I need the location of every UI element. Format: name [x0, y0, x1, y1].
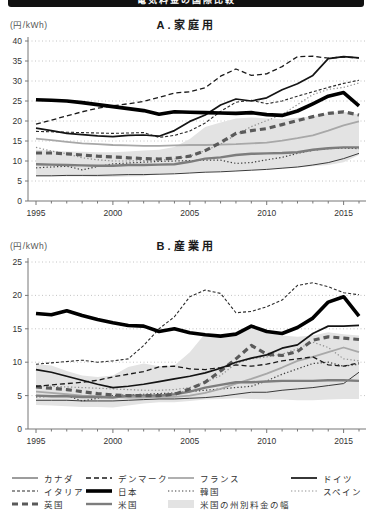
y-tick-label: 5 [17, 391, 22, 401]
band-swatch [168, 500, 194, 508]
legend-swatch-italy [12, 486, 40, 496]
x-tick-label: 2000 [103, 436, 122, 446]
legend-label: 米国 [118, 498, 138, 510]
household-chart-canvas: 051015202530354019952000200520102015 [0, 31, 372, 231]
legend-label: スペイン [323, 485, 362, 497]
y-tick-label: 25 [13, 96, 23, 106]
legend-item-us: 米国 [86, 498, 168, 510]
legend-item-italy: イタリア [12, 485, 86, 497]
industrial-chart-section: (円/kWh) B.産業用 05101520251995200020052010… [0, 237, 372, 464]
legend-item-korea: 韓国 [168, 485, 291, 497]
legend-label: 日本 [118, 485, 138, 497]
legend-label: 米国の州別料金の幅 [200, 498, 290, 510]
legend-label: カナダ [44, 472, 74, 484]
household-chart-title: A.家庭用 [0, 16, 372, 32]
legend-item-band: 米国の州別料金の幅 [168, 498, 291, 510]
legend-swatch-japan [86, 486, 114, 496]
legend-item-canada: カナダ [12, 472, 86, 484]
y-tick-label: 25 [13, 257, 23, 267]
x-tick-label: 2005 [180, 208, 199, 218]
x-tick-label: 2015 [334, 208, 353, 218]
report-title: 電気料金の国際比較 [137, 0, 236, 5]
y-tick-label: 35 [13, 56, 23, 66]
industrial-chart-canvas: 051015202519952000200520102015 [0, 252, 372, 464]
legend-item-japan: 日本 [86, 485, 168, 497]
y-tick-label: 15 [13, 136, 23, 146]
y-tick-label: 20 [13, 290, 23, 300]
legend-item-germany: ドイツ [291, 472, 353, 484]
y-tick-label: 30 [13, 76, 23, 86]
chart-legend: カナダデンマークフランスドイツイタリア日本韓国スペイン英国米国米国の州別料金の幅 [0, 472, 372, 510]
report-title-bar: 電気料金の国際比較 [8, 0, 364, 7]
y-tick-label: 0 [17, 196, 22, 206]
y-tick-label: 0 [17, 424, 22, 434]
x-tick-label: 2015 [334, 436, 353, 446]
legend-label: フランス [200, 472, 240, 484]
legend-swatch-band [168, 499, 196, 509]
legend-item-spain: スペイン [291, 485, 362, 497]
x-tick-label: 1995 [27, 208, 46, 218]
y-tick-label: 40 [13, 36, 23, 46]
legend-label: 韓国 [200, 485, 220, 497]
legend-label: イタリア [44, 485, 84, 497]
y-tick-label: 15 [13, 324, 23, 334]
legend-label: 英国 [44, 498, 64, 510]
x-tick-label: 2010 [257, 436, 276, 446]
series-japan-line [36, 297, 359, 336]
y-tick-label: 10 [13, 357, 23, 367]
y-tick-label: 5 [17, 176, 22, 186]
legend-swatch-korea [168, 486, 196, 496]
legend-swatch-denmark [86, 473, 114, 483]
x-tick-label: 2010 [257, 208, 276, 218]
legend-label: デンマーク [118, 472, 168, 484]
y-tick-label: 20 [13, 116, 23, 126]
y-tick-label: 10 [13, 156, 23, 166]
legend-item-denmark: デンマーク [86, 472, 168, 484]
legend-swatch-germany [291, 473, 319, 483]
x-tick-label: 1995 [27, 436, 46, 446]
legend-swatch-spain [291, 486, 319, 496]
legend-swatch-us [86, 499, 114, 509]
x-tick-label: 2000 [103, 208, 122, 218]
legend-swatch-france [168, 473, 196, 483]
x-tick-label: 2005 [180, 436, 199, 446]
industrial-chart-title: B.産業用 [0, 237, 372, 253]
legend-row: 英国米国米国の州別料金の幅 [12, 498, 372, 510]
legend-label: ドイツ [323, 472, 353, 484]
legend-item-france: フランス [168, 472, 291, 484]
household-chart-section: (円/kWh) A.家庭用 05101520253035401995200020… [0, 16, 372, 231]
legend-swatch-uk [12, 499, 40, 509]
legend-row: カナダデンマークフランスドイツ [12, 472, 372, 484]
legend-swatch-canada [12, 473, 40, 483]
legend-item-uk: 英国 [12, 498, 86, 510]
legend-row: イタリア日本韓国スペイン [12, 485, 372, 497]
